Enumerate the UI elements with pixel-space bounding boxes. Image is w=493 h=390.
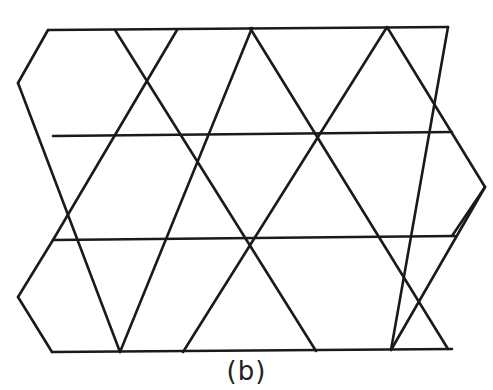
kagome-tiling-diagram bbox=[0, 0, 493, 390]
tiling-lines bbox=[18, 27, 485, 352]
tiling-edge bbox=[53, 132, 452, 136]
tiling-edge bbox=[18, 297, 52, 352]
tiling-edge bbox=[18, 83, 120, 352]
tiling-edge bbox=[387, 27, 485, 187]
tiling-edge bbox=[120, 28, 252, 352]
tiling-edge bbox=[18, 30, 48, 83]
figure-caption: (b) bbox=[0, 356, 493, 386]
tiling-edge bbox=[18, 240, 53, 297]
